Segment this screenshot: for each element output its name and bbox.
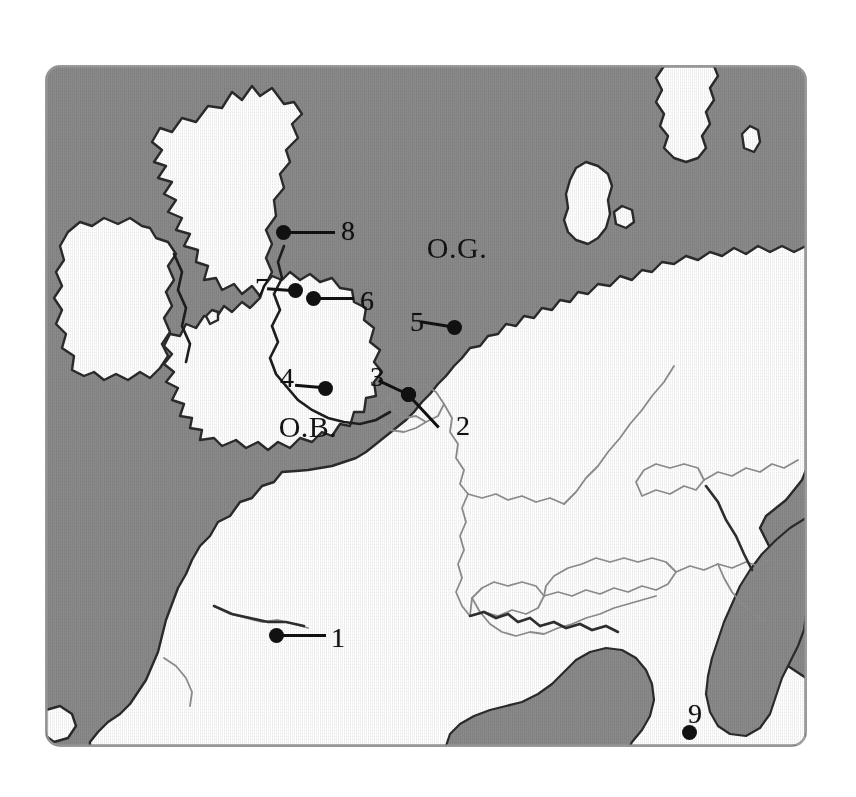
leader-line-8 <box>288 231 335 234</box>
site-dot-3 <box>401 387 416 402</box>
site-dot-4 <box>318 381 333 396</box>
site-dot-7 <box>288 283 303 298</box>
site-number-5: 5 <box>410 308 424 336</box>
site-number-1: 1 <box>331 624 345 652</box>
site-dot-1 <box>269 628 284 643</box>
leader-line-1 <box>282 634 326 637</box>
map-figure: O.G.O.B. 123456789 <box>0 0 856 797</box>
leader-line-5 <box>420 320 450 328</box>
site-number-3: 3 <box>370 363 384 391</box>
leader-line-6 <box>318 297 354 300</box>
site-number-6: 6 <box>360 287 374 315</box>
site-number-9: 9 <box>688 700 702 728</box>
site-dot-6 <box>306 291 321 306</box>
site-marker-layer: 123456789 <box>0 0 856 797</box>
site-number-4: 4 <box>280 364 294 392</box>
site-number-7: 7 <box>255 274 269 302</box>
site-dot-8 <box>276 225 291 240</box>
site-dot-5 <box>447 320 462 335</box>
site-number-2: 2 <box>456 412 470 440</box>
site-number-8: 8 <box>341 217 355 245</box>
